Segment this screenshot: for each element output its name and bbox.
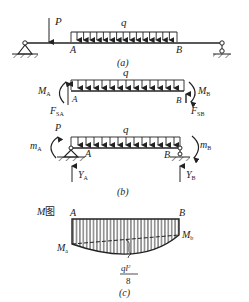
point-a-label-b2: A [84, 148, 92, 159]
moment-mB-label: mB [200, 139, 211, 151]
point-load-label-b2: P [54, 122, 61, 133]
moment-a-label: MA [37, 85, 51, 97]
moment-mA-arc-icon [51, 137, 58, 158]
point-b-label-b1: B [176, 95, 182, 105]
caption-b: (b) [117, 186, 129, 198]
shear-a-label: FSA [49, 105, 64, 117]
shear-b-label: FSB [190, 105, 204, 117]
beam-analysis-diagram: P q [0, 0, 249, 302]
figure-b-simply-supported: q P mA mB A B YA YB (b) [30, 122, 211, 198]
point-b-label-c: B [179, 207, 185, 218]
distributed-load-b2 [71, 137, 180, 146]
reaction-b-label: YB [186, 169, 196, 181]
moment-b-label: MB [197, 85, 210, 97]
point-load-label: P [54, 15, 62, 27]
figure-b-free-body: q MA MB A B FSA FSB [37, 66, 210, 117]
moment-mB-arc-icon [192, 136, 199, 158]
midspan-numerator: ql2 [121, 263, 131, 273]
end-moment-left-label: Ma [56, 242, 68, 254]
point-a-label-c: A [69, 207, 77, 218]
end-moment-right-label: Mb [181, 229, 193, 241]
distributed-load-label-b1: q [123, 66, 129, 78]
moment-b-arc-icon [189, 82, 195, 102]
moment-a-arc-icon [59, 82, 66, 103]
distributed-load-b1 [71, 80, 184, 91]
figure-c-moment-diagram: M图 A B Ma Mb ql2 8 (c) [36, 206, 193, 299]
figure-a: P q [12, 15, 231, 69]
moment-mA-label: mA [30, 140, 42, 152]
point-a-label: A [69, 44, 77, 55]
point-a-label-b1: A [71, 94, 78, 104]
distributed-load-label-b2: q [123, 123, 129, 135]
distributed-load-a [71, 32, 177, 42]
point-b-label-b2: B [164, 149, 170, 160]
midspan-denominator: 8 [126, 276, 131, 286]
moment-diagram-title: M图 [36, 206, 55, 217]
reaction-a-label: YA [78, 169, 89, 181]
distributed-load-label: q [121, 16, 127, 28]
caption-c: (c) [119, 287, 131, 299]
point-b-label: B [176, 44, 182, 55]
